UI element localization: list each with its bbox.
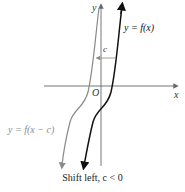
shifted-curve-label: y = f(x − c)	[8, 124, 54, 135]
original-curve-label: y = f(x)	[124, 22, 154, 33]
y-axis-label: y	[92, 2, 96, 13]
x-axis-label: x	[174, 89, 178, 100]
caption: Shift left, c < 0	[0, 172, 185, 183]
origin-label: O	[92, 87, 99, 98]
shift-c-label: c	[103, 44, 107, 54]
